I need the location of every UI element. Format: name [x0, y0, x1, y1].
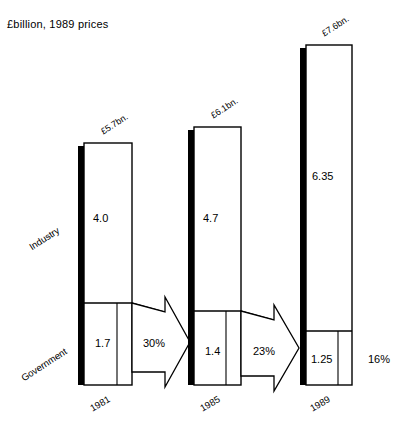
share-label-1985: 23%: [253, 345, 275, 357]
bar-1989-body[interactable]: [306, 45, 352, 385]
bar-1985-industry-value: 4.7: [203, 212, 218, 224]
bar-1989-government-value: 1.25: [311, 353, 332, 365]
bar-1989-industry-value: 6.35: [312, 170, 333, 182]
share-label-1981: 30%: [143, 337, 165, 349]
bar-1981-industry-value: 4.0: [93, 212, 108, 224]
bar-1981-government-value: 1.7: [95, 337, 110, 349]
share-label-1989: 16%: [368, 353, 390, 365]
bar-1985-government-value: 1.4: [205, 345, 220, 357]
chart-canvas: £billion, 1989 prices £5.7bn. £6.1bn. £7…: [0, 0, 408, 432]
